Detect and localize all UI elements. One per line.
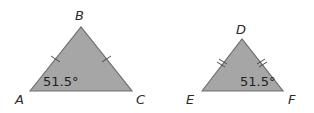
triangle-def: 51.5° D E F — [186, 22, 296, 107]
vertex-label-c: C — [136, 92, 146, 107]
triangle-abc: 51.5° A B C — [14, 8, 146, 107]
vertex-label-a: A — [14, 92, 24, 107]
vertex-label-f: F — [288, 92, 296, 107]
vertex-label-e: E — [186, 92, 195, 107]
vertex-label-d: D — [236, 22, 246, 37]
angle-label-a: 51.5° — [43, 74, 78, 89]
triangles-diagram: 51.5° A B C 51.5° D E F — [0, 0, 314, 113]
vertex-label-b: B — [75, 8, 84, 23]
angle-label-f: 51.5° — [240, 74, 275, 89]
